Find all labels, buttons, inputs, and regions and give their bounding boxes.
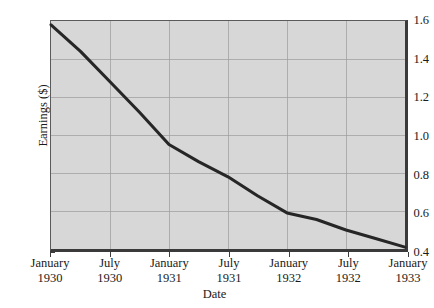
y-axis-title: Earnings ($)	[36, 56, 51, 176]
x-axis-title: Date	[0, 287, 429, 302]
x-tick-year: 1933	[371, 271, 434, 286]
series-earnings	[51, 21, 405, 249]
series-line	[51, 25, 405, 247]
plot-area	[50, 20, 408, 252]
x-tick-label: January1933	[371, 256, 434, 285]
x-tick-month: January	[371, 256, 434, 271]
